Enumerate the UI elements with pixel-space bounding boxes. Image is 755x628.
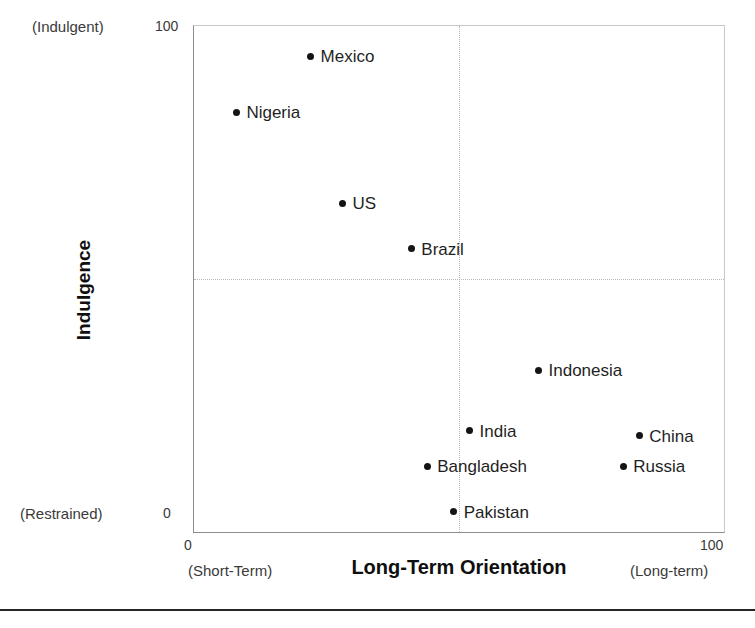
y-axis-tick-100: 100 bbox=[155, 18, 178, 34]
data-point-label-nigeria: Nigeria bbox=[246, 104, 300, 121]
plot-area: MexicoNigeriaUSBrazilIndonesiaIndiaChina… bbox=[193, 25, 725, 533]
data-point-label-china: China bbox=[649, 427, 693, 444]
data-point-label-india: India bbox=[480, 422, 517, 439]
y-axis-anchor-bottom: (Restrained) bbox=[20, 505, 103, 522]
data-point-brazil bbox=[408, 245, 415, 252]
data-point-label-mexico: Mexico bbox=[321, 48, 375, 65]
data-point-label-brazil: Brazil bbox=[421, 240, 464, 257]
data-point-mexico bbox=[307, 53, 314, 60]
data-point-pakistan bbox=[450, 508, 457, 515]
data-point-label-pakistan: Pakistan bbox=[464, 503, 529, 520]
scatter-plot-figure: (Indulgent) 100 (Restrained) 0 Indulgenc… bbox=[0, 0, 755, 628]
bottom-divider bbox=[0, 609, 755, 611]
data-point-nigeria bbox=[233, 109, 240, 116]
data-point-label-bangladesh: Bangladesh bbox=[437, 458, 527, 475]
data-point-russia bbox=[620, 463, 627, 470]
data-point-bangladesh bbox=[424, 463, 431, 470]
data-point-china bbox=[636, 432, 643, 439]
data-point-indonesia bbox=[535, 367, 542, 374]
y-axis-title: Indulgence bbox=[73, 195, 95, 385]
data-point-us bbox=[339, 200, 346, 207]
y-axis-tick-0: 0 bbox=[163, 505, 171, 521]
data-point-label-us: US bbox=[352, 195, 376, 212]
data-point-india bbox=[466, 427, 473, 434]
data-point-label-indonesia: Indonesia bbox=[549, 362, 623, 379]
x-axis-tick-100: 100 bbox=[700, 537, 723, 553]
x-axis-title: Long-Term Orientation bbox=[193, 556, 725, 579]
y-axis-anchor-top: (Indulgent) bbox=[32, 18, 104, 35]
gridline-horizontal-50 bbox=[194, 279, 724, 280]
x-axis-tick-0: 0 bbox=[184, 537, 192, 553]
data-point-label-russia: Russia bbox=[633, 458, 685, 475]
